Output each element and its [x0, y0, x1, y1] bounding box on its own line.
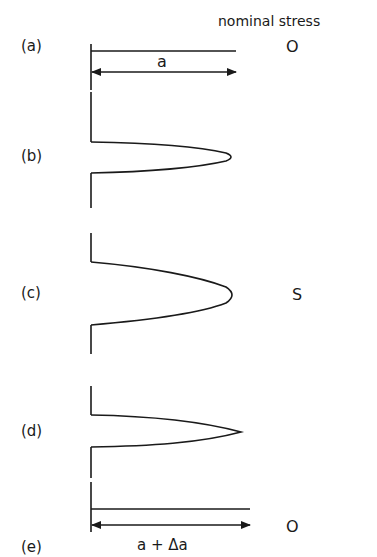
crack-profile-d — [91, 415, 241, 447]
nominal-stress-header: nominal stress — [218, 14, 320, 28]
panel-c-crack — [91, 233, 232, 354]
panel-e-crack — [91, 482, 250, 532]
panel-label-a: (a) — [21, 39, 42, 54]
dimension-label-e: a + Δa — [137, 538, 188, 553]
stress-value-c: S — [292, 287, 302, 303]
panel-label-e: (e) — [21, 540, 42, 555]
panel-label-b: (b) — [21, 149, 42, 164]
panel-d-crack — [91, 386, 241, 478]
crack-diagram — [0, 0, 377, 557]
stress-value-e: O — [286, 519, 299, 535]
panel-label-c: (c) — [21, 286, 41, 301]
dimension-label-a: a — [157, 54, 167, 70]
crack-profile-b — [91, 142, 231, 173]
crack-profile-c — [91, 262, 232, 325]
panel-label-d: (d) — [21, 424, 42, 439]
panel-b-crack — [91, 92, 231, 208]
stress-value-a: O — [286, 39, 299, 55]
